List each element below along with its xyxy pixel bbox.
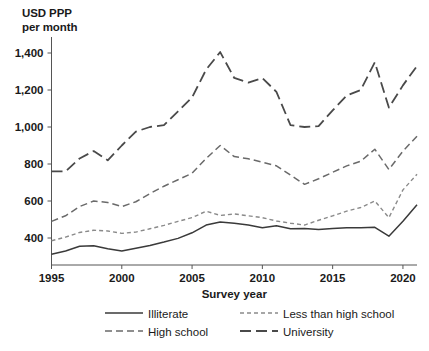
legend-label-less-than-high-school: Less than high school <box>283 308 394 320</box>
x-axis-tick-label: 2000 <box>109 272 135 284</box>
series-line-illiterate <box>52 205 418 255</box>
series-line-high-school <box>52 136 418 221</box>
y-axis-tick-label: 1,200 <box>15 84 44 96</box>
legend-label-high-school: High school <box>148 326 208 338</box>
y-axis-tick-label: 800 <box>24 158 43 170</box>
series-line-less-than-high-school <box>52 174 418 241</box>
chart-figure: USD PPP per month 4006008001,0001,2001,4… <box>0 0 429 351</box>
x-axis-tick-label: 2005 <box>179 272 205 284</box>
y-axis-tick-label: 600 <box>24 195 43 207</box>
y-axis-label: USD PPP per month <box>22 6 77 34</box>
x-axis-tick-label: 2010 <box>250 272 276 284</box>
x-axis-tick-label: 1995 <box>39 272 65 284</box>
legend-label-illiterate: Illiterate <box>148 308 188 320</box>
x-axis-title: Survey year <box>202 288 268 300</box>
legend-label-university: University <box>283 326 334 338</box>
y-axis-tick-label: 1,000 <box>15 121 44 133</box>
series-line-university <box>52 52 418 171</box>
line-chart: 4006008001,0001,2001,4001995200020052010… <box>0 0 429 351</box>
x-axis-tick-label: 2015 <box>320 272 346 284</box>
y-axis-tick-label: 400 <box>24 232 43 244</box>
x-axis-tick-label: 2020 <box>390 272 416 284</box>
y-axis-tick-label: 1,400 <box>15 47 44 59</box>
